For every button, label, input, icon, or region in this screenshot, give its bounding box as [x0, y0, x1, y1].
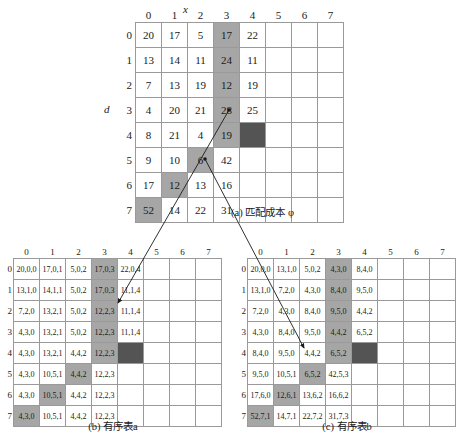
table-cell: 12,6,1: [274, 385, 300, 406]
table-cell: 4,3,0: [326, 259, 352, 280]
table-cell: 4,3,0: [14, 385, 40, 406]
ordered-table-a: 0 1 2 3 4 5 6 7 020,0,017,0,15,0,217,0,3…: [4, 246, 222, 427]
table-cell: 22,0,4: [118, 259, 144, 280]
table-cell: 13: [162, 73, 188, 98]
row-header: 3: [238, 322, 248, 343]
figure-a-caption: (a) 匹配成本 φ: [231, 204, 294, 219]
table-cell: 9,5,0: [352, 280, 378, 301]
table-cell: 17: [162, 23, 188, 48]
table-row: 44,3,013,2,14,4,212,2,3: [4, 343, 222, 364]
table-cell-empty: [352, 343, 378, 364]
table-cell-empty: [196, 343, 222, 364]
table-cell: 4,3,0: [14, 364, 40, 385]
table-cell: 5,0,2: [66, 259, 92, 280]
table-cell-empty: [404, 364, 430, 385]
table-cell: 4: [136, 98, 162, 123]
col-header: 0: [136, 8, 162, 23]
table-cell-empty: [404, 301, 430, 322]
table-cell-empty: [170, 280, 196, 301]
table-cell: 4: [188, 123, 214, 148]
table-row: 64,3,010,5,14,4,212,2,3: [4, 385, 222, 406]
table-row: 113,1,014,1,15,0,217,0,311,1,4: [4, 280, 222, 301]
table-cell-empty: [292, 173, 318, 198]
axis-d-label: d: [104, 103, 110, 115]
table-cell-empty: [292, 123, 318, 148]
table-cell-empty: [144, 259, 170, 280]
table-cell-empty: [196, 385, 222, 406]
match-cost-table: 0 1 2 3 4 5 6 7 020175172211314112411271…: [118, 8, 344, 223]
table-row: 27,2,013,2,15,0,212,2,311,1,4: [4, 301, 222, 322]
ordered-table-b: 0 1 2 3 4 5 6 7 020,0,013,1,05,0,24,3,08…: [238, 246, 456, 427]
table-cell: 21: [188, 98, 214, 123]
table-cell-empty: [170, 343, 196, 364]
table-cell-empty: [170, 385, 196, 406]
table-cell-empty: [266, 173, 292, 198]
col-header: 5: [378, 246, 404, 259]
col-header: 6: [292, 8, 318, 23]
corner-cell: [4, 246, 14, 259]
table-cell-empty: [292, 23, 318, 48]
table-head: 0 1 2 3 4 5 6 7: [238, 246, 456, 259]
row-header: 0: [118, 23, 136, 48]
table-cell: 7,2,0: [14, 301, 40, 322]
table-cell-empty: [318, 98, 344, 123]
table-cell-empty: [318, 123, 344, 148]
table-cell: 13,6,2: [300, 385, 326, 406]
figure-c-caption: (c) 有序表b: [238, 418, 456, 433]
corner-cell: [238, 246, 248, 259]
table-cell: 52: [136, 198, 162, 223]
col-header: 2: [188, 8, 214, 23]
col-header: 5: [144, 246, 170, 259]
table-cell-empty: [292, 198, 318, 223]
table-cell: 12: [214, 73, 240, 98]
table-cell: 19: [240, 73, 266, 98]
table-cell: 4,4,2: [300, 343, 326, 364]
table-cell-empty: [430, 322, 456, 343]
table-cell: 14: [162, 198, 188, 223]
table-cell: 4,3,0: [274, 301, 300, 322]
table-cell-empty: [266, 48, 292, 73]
table-cell-empty: [196, 364, 222, 385]
table-cell-empty: [378, 301, 404, 322]
col-header: 3: [92, 246, 118, 259]
col-header: 3: [214, 8, 240, 23]
table-cell-empty: [378, 364, 404, 385]
col-header: 6: [404, 246, 430, 259]
table-cell: 13,1,0: [248, 280, 274, 301]
table-cell-empty: [404, 385, 430, 406]
table-cell-empty: [240, 148, 266, 173]
col-header: 7: [318, 8, 344, 23]
table-cell-empty: [430, 301, 456, 322]
table-cell: 4,4,2: [66, 385, 92, 406]
table-row: 34,3,013,2,15,0,212,2,311,1,4: [4, 322, 222, 343]
table-cell-empty: [196, 259, 222, 280]
table-cell: 5,0,2: [66, 280, 92, 301]
table-row: 113,1,07,2,04,3,08,4,09,5,0: [238, 280, 456, 301]
table-cell: 24: [214, 48, 240, 73]
table-cell-empty: [318, 23, 344, 48]
table-cell-empty: [170, 364, 196, 385]
table-cell-empty: [318, 198, 344, 223]
table-cell: 19: [188, 73, 214, 98]
col-header: 7: [196, 246, 222, 259]
table-cell: 20,0,0: [248, 259, 274, 280]
col-header: 2: [300, 246, 326, 259]
table-cell: 6,5,2: [300, 364, 326, 385]
table-cell-empty: [378, 343, 404, 364]
table-cell-empty: [430, 385, 456, 406]
row-header: 1: [118, 48, 136, 73]
table-cell: 8,4,0: [300, 301, 326, 322]
col-header: 0: [248, 246, 274, 259]
table-cell-empty: [292, 48, 318, 73]
table-row: 59,5,010,5,16,5,242,5,3: [238, 364, 456, 385]
table-row: 5910642: [118, 148, 344, 173]
table-cell-empty: [430, 343, 456, 364]
table-cell: 6,5,2: [326, 343, 352, 364]
table-cell-empty: [266, 123, 292, 148]
col-header: 1: [274, 246, 300, 259]
figure-a-match-cost: x d 0 1 2 3 4 5 6 7 02017517221131411241…: [118, 8, 344, 223]
table-cell: 10: [162, 148, 188, 173]
table-cell: 11,1,4: [118, 301, 144, 322]
table-cell: 12,2,3: [92, 322, 118, 343]
table-cell-empty: [404, 280, 430, 301]
